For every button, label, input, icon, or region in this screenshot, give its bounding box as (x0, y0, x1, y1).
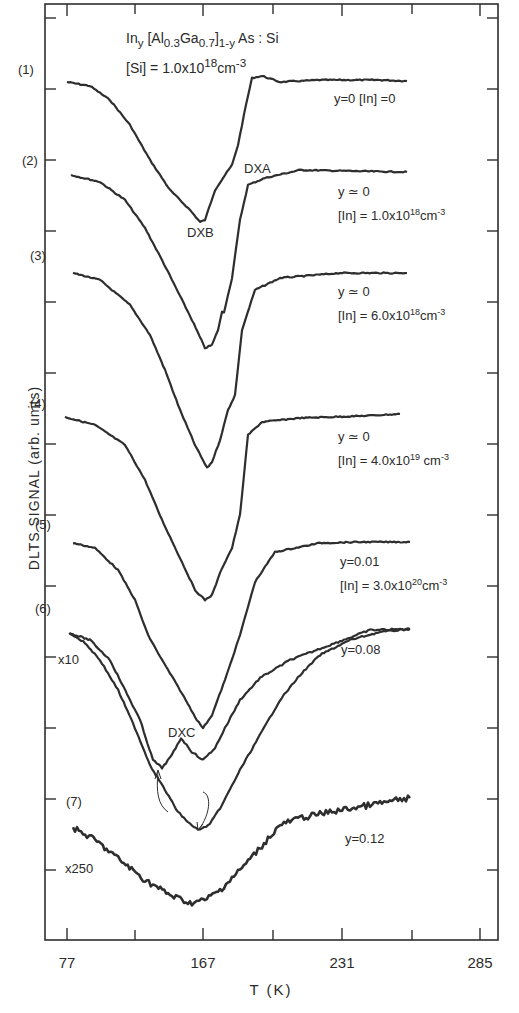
chart-subtitle: [Si] = 1.0x1018cm-3 (126, 56, 246, 76)
legend-curve-3-y: y ≃ 0 (338, 285, 370, 298)
x-tick-label: 77 (59, 954, 76, 971)
legend-curve-3-in: [In] = 6.0x1018cm-3 (338, 308, 445, 322)
dxc-arrows (155, 770, 209, 830)
curve-label-7: (7) (66, 795, 82, 808)
x-tick-label: 231 (329, 954, 354, 971)
dlts-curves (65, 76, 410, 906)
legend-curve-5-y: y=0.01 (340, 555, 379, 568)
x-axis-ticks (67, 4, 480, 940)
curve-label-1: (1) (18, 63, 34, 76)
plot-frame (45, 4, 498, 940)
dxc-arrow-right (199, 792, 209, 829)
x-tick-label: 167 (190, 954, 215, 971)
y-axis-label: DLTS SIGNAL (arb. units) (26, 386, 42, 570)
dlts-curve-7 (70, 629, 410, 830)
legend-curve-2-y: y ≃ 0 (338, 185, 370, 198)
legend-curve-1: y=0 [In] =0 (334, 92, 395, 105)
annotation-dxa: DXA (244, 162, 271, 175)
curve-label-3: (3) (30, 249, 46, 262)
curve-label-6: (6) (35, 602, 51, 615)
annotation-dxc: DXC (168, 726, 195, 739)
annotation-dxb: DXB (187, 226, 214, 239)
y-axis-ticks (45, 18, 498, 870)
legend-curve-5-in: [In] = 3.0x1020cm-3 (340, 578, 447, 592)
curve-label-2: (2) (22, 154, 38, 167)
legend-curve-7: y=0.12 (345, 832, 384, 845)
x-tick-label: 285 (467, 954, 492, 971)
scale-label-7: x250 (65, 862, 93, 875)
legend-curve-2-in: [In] = 1.0x1018cm-3 (338, 208, 445, 222)
legend-curve-6: y=0.08 (341, 643, 380, 656)
dlts-curve-8 (73, 796, 410, 906)
legend-curve-4-y: y ≃ 0 (338, 430, 370, 443)
legend-curve-4-in: [In] = 4.0x1019 cm-3 (338, 453, 449, 467)
chart-title: Iny [Al0.3Ga0.7]1-y As : Si (126, 30, 279, 49)
x-axis-label: T (K) (249, 981, 292, 998)
scale-label-6: x10 (58, 653, 79, 666)
